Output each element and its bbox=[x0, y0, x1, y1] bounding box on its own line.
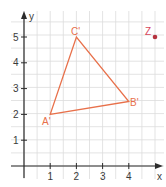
triangle: A' B' C' bbox=[42, 26, 139, 127]
vertex-label-b: B' bbox=[130, 97, 139, 108]
y-tick-5: 5 bbox=[13, 32, 19, 43]
y-tick-2: 2 bbox=[13, 109, 19, 120]
x-axis: x bbox=[11, 163, 163, 182]
x-tick-2: 2 bbox=[74, 171, 80, 182]
point-z-dot-icon bbox=[153, 35, 158, 40]
grid bbox=[11, 11, 164, 179]
y-tick-labels: 1 2 3 4 5 bbox=[13, 32, 19, 146]
x-tick-4: 4 bbox=[126, 171, 132, 182]
vertex-label-c: C' bbox=[71, 26, 80, 37]
y-tick-3: 3 bbox=[13, 83, 19, 94]
y-tick-1: 1 bbox=[13, 135, 19, 146]
x-axis-arrow-icon bbox=[155, 163, 163, 169]
y-tick-4: 4 bbox=[13, 57, 19, 68]
x-tick-1: 1 bbox=[48, 171, 54, 182]
point-z: Z bbox=[145, 26, 157, 39]
point-z-label: Z bbox=[145, 26, 151, 37]
coordinate-plane: x y 1 2 3 4 1 2 3 4 5 A' B' C' Z bbox=[0, 0, 166, 187]
y-axis-arrow-icon bbox=[21, 11, 27, 19]
y-axis-label: y bbox=[29, 11, 34, 22]
vertex-label-a: A' bbox=[42, 116, 51, 127]
x-tick-3: 3 bbox=[100, 171, 106, 182]
x-axis-label: x bbox=[157, 171, 162, 182]
